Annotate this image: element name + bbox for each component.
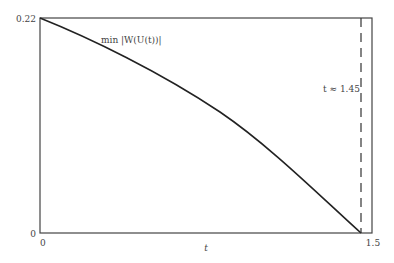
curve-line [40, 18, 361, 233]
x-tick-left: 0 [40, 238, 46, 248]
y-tick-top: 0.22 [16, 14, 36, 24]
y-tick-bottom: 0 [30, 229, 36, 239]
curve-label: min |W(U(t))| [101, 35, 162, 46]
plot-frame [40, 18, 372, 233]
vline-label: t ≈ 1.45 [323, 84, 360, 94]
chart: 0.22 0 0 1.5 t min |W(U(t))| t ≈ 1.45 [0, 0, 394, 263]
x-axis-label: t [204, 243, 208, 253]
x-tick-right: 1.5 [366, 238, 381, 248]
